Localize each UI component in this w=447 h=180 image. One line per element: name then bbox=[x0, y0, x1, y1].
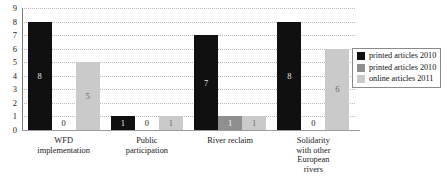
bar-group: 806 bbox=[272, 8, 355, 130]
x-category-label-line: River reclaim bbox=[189, 136, 272, 146]
x-category-label-line: European bbox=[272, 155, 355, 165]
bar-chart: 0123456789 805101711806 WFDimplementatio… bbox=[0, 0, 447, 180]
bar-value-label: 0 bbox=[52, 119, 76, 128]
y-tick-label: 0 bbox=[13, 126, 17, 135]
legend-swatch-icon bbox=[357, 64, 365, 72]
bar: 6 bbox=[325, 49, 349, 130]
bar-slot: 0 bbox=[135, 8, 159, 130]
x-category-label-line: participation bbox=[105, 146, 188, 156]
bar-slot: 5 bbox=[76, 8, 100, 130]
y-tick-label: 9 bbox=[13, 4, 17, 13]
legend-label: printed articles 2010 bbox=[369, 64, 436, 73]
bar-slot: 1 bbox=[218, 8, 242, 130]
bar-slot: 0 bbox=[301, 8, 325, 130]
bar: 1 bbox=[159, 116, 183, 130]
bar-value-label: 1 bbox=[218, 119, 242, 128]
bar-group: 101 bbox=[105, 8, 188, 130]
bar-value-label: 5 bbox=[76, 92, 100, 101]
y-tick-label: 2 bbox=[13, 99, 17, 108]
x-category-label-line: Solidarity bbox=[272, 136, 355, 146]
bar-slot: 1 bbox=[111, 8, 135, 130]
chart-legend: printed articles 2010printed articles 20… bbox=[352, 48, 441, 88]
legend-label: online articles 2011 bbox=[369, 75, 433, 84]
y-tick-label: 3 bbox=[13, 85, 17, 94]
y-tick-label: 7 bbox=[13, 31, 17, 40]
y-tick-label: 4 bbox=[13, 72, 17, 81]
x-category-label: Solidaritywith otherEuropeanrivers bbox=[272, 133, 355, 179]
y-tick-label: 8 bbox=[13, 17, 17, 26]
bar-value-label: 6 bbox=[325, 85, 349, 94]
bar-slot: 7 bbox=[194, 8, 218, 130]
bar: 7 bbox=[194, 35, 218, 130]
x-axis-category-labels: WFDimplementationPublicparticipationRive… bbox=[22, 133, 355, 179]
bar: 1 bbox=[242, 116, 266, 130]
y-axis-tick-labels: 0123456789 bbox=[0, 8, 20, 130]
bar-group: 711 bbox=[189, 8, 272, 130]
bar-groups: 805101711806 bbox=[22, 8, 355, 130]
x-category-label: Publicparticipation bbox=[105, 133, 188, 179]
bar-slot: 1 bbox=[159, 8, 183, 130]
x-category-label-line: with other bbox=[272, 146, 355, 156]
bar-value-label: 8 bbox=[28, 71, 52, 80]
bar-value-label: 8 bbox=[277, 71, 301, 80]
bar-value-label: 0 bbox=[301, 119, 325, 128]
bar: 8 bbox=[277, 22, 301, 130]
y-tick-label: 1 bbox=[13, 112, 17, 121]
x-category-label-line: Public bbox=[105, 136, 188, 146]
y-tick-label: 6 bbox=[13, 44, 17, 53]
legend-label: printed articles 2010 bbox=[369, 52, 436, 61]
legend-entry: printed articles 2010 bbox=[357, 52, 436, 61]
bar-value-label: 1 bbox=[111, 119, 135, 128]
x-category-label-line: rivers bbox=[272, 165, 355, 175]
x-axis-line bbox=[22, 130, 360, 131]
legend-entry: printed articles 2010 bbox=[357, 64, 436, 73]
bar: 8 bbox=[28, 22, 52, 130]
legend-swatch-icon bbox=[357, 75, 365, 83]
bar-value-label: 0 bbox=[135, 119, 159, 128]
bar-value-label: 1 bbox=[159, 119, 183, 128]
legend-swatch-icon bbox=[357, 52, 365, 60]
x-category-label: River reclaim bbox=[189, 133, 272, 179]
x-category-label-line: WFD bbox=[22, 136, 105, 146]
bar-group: 805 bbox=[22, 8, 105, 130]
bar-slot: 0 bbox=[52, 8, 76, 130]
y-tick-label: 5 bbox=[13, 58, 17, 67]
bar-slot: 6 bbox=[325, 8, 349, 130]
bar: 1 bbox=[218, 116, 242, 130]
bar-value-label: 7 bbox=[194, 78, 218, 87]
bar-value-label: 1 bbox=[242, 119, 266, 128]
x-category-label-line: implementation bbox=[22, 146, 105, 156]
x-category-label: WFDimplementation bbox=[22, 133, 105, 179]
bar-slot: 8 bbox=[277, 8, 301, 130]
bar: 1 bbox=[111, 116, 135, 130]
bar-slot: 1 bbox=[242, 8, 266, 130]
bar-slot: 8 bbox=[28, 8, 52, 130]
legend-entry: online articles 2011 bbox=[357, 75, 436, 84]
bar: 5 bbox=[76, 62, 100, 130]
